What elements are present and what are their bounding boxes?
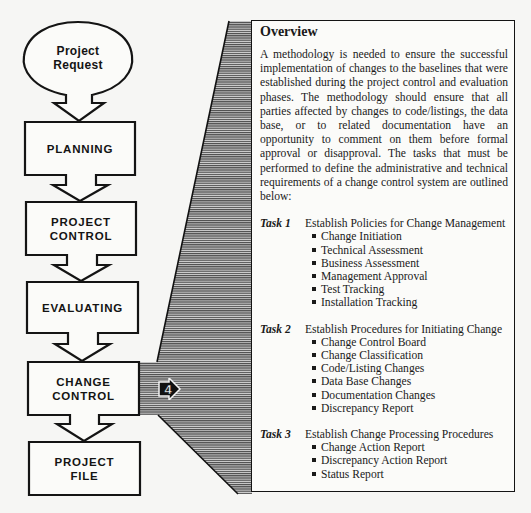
- list-item: Change Classification: [311, 349, 508, 362]
- phase-number: 4: [164, 382, 172, 397]
- list-item: Status Report: [311, 468, 508, 481]
- list-item: Code/Listing Changes: [311, 362, 508, 375]
- phase-arrow-badge-icon: 4: [157, 378, 182, 400]
- callout-wedge: [140, 21, 252, 494]
- step-change-control-label: CHANGE CONTROL: [28, 375, 139, 403]
- start-label-line2: Request: [34, 58, 122, 72]
- task-3: Task 3 Establish Change Processing Proce…: [260, 428, 508, 481]
- overview-paragraph: A methodology is needed to ensure the su…: [260, 48, 508, 204]
- step-evaluating-label: EVALUATING: [27, 301, 138, 315]
- overview-title: Overview: [260, 24, 508, 40]
- list-item: Discrepancy Report: [311, 402, 508, 415]
- step-line2: FILE: [29, 469, 140, 483]
- task-label: Task 2: [260, 323, 305, 415]
- step-project-file-label: PROJECT FILE: [29, 455, 140, 483]
- task-items: Change Action Report Discrepancy Action …: [305, 441, 508, 481]
- step-line1: PROJECT: [26, 215, 136, 229]
- task-title: Establish Procedures for Initiating Chan…: [305, 323, 508, 336]
- list-item: Business Assessment: [311, 257, 508, 270]
- task-items: Change Control Board Change Classificati…: [305, 336, 508, 415]
- list-item: Discrepancy Action Report: [311, 454, 508, 467]
- task-title: Establish Change Processing Procedures: [305, 428, 508, 441]
- planning-box: [25, 122, 135, 201]
- list-item: Technical Assessment: [311, 244, 508, 257]
- step-line1: CHANGE: [28, 375, 139, 389]
- list-item: Management Approval: [311, 270, 508, 283]
- task-label: Task 3: [260, 428, 305, 481]
- task-label: Task 1: [260, 217, 305, 309]
- step-line2: CONTROL: [28, 389, 139, 403]
- list-item: Change Control Board: [311, 336, 508, 349]
- start-label: Project Request: [34, 44, 122, 72]
- task-title: Establish Policies for Change Management: [305, 217, 508, 230]
- step-line1: EVALUATING: [27, 301, 138, 315]
- task-1: Task 1 Establish Policies for Change Man…: [260, 217, 508, 309]
- overview-panel: Overview A methodology is needed to ensu…: [252, 21, 514, 491]
- list-item: Installation Tracking: [311, 296, 508, 309]
- list-item: Change Initiation: [311, 230, 508, 243]
- step-line1: PLANNING: [25, 142, 135, 156]
- change-control-page: Project Request PLANNING PROJECT CONTROL…: [0, 0, 531, 513]
- step-line1: PROJECT: [29, 455, 140, 469]
- list-item: Documentation Changes: [311, 389, 508, 402]
- list-item: Test Tracking: [311, 283, 508, 296]
- list-item: Data Base Changes: [311, 375, 508, 388]
- step-line2: CONTROL: [26, 229, 136, 243]
- step-planning-label: PLANNING: [25, 142, 135, 156]
- evaluating-box: [27, 282, 138, 361]
- list-item: Change Action Report: [311, 441, 508, 454]
- start-label-line1: Project: [34, 44, 122, 58]
- step-project-control-label: PROJECT CONTROL: [26, 215, 136, 243]
- task-2: Task 2 Establish Procedures for Initiati…: [260, 323, 508, 415]
- task-items: Change Initiation Technical Assessment B…: [305, 230, 508, 309]
